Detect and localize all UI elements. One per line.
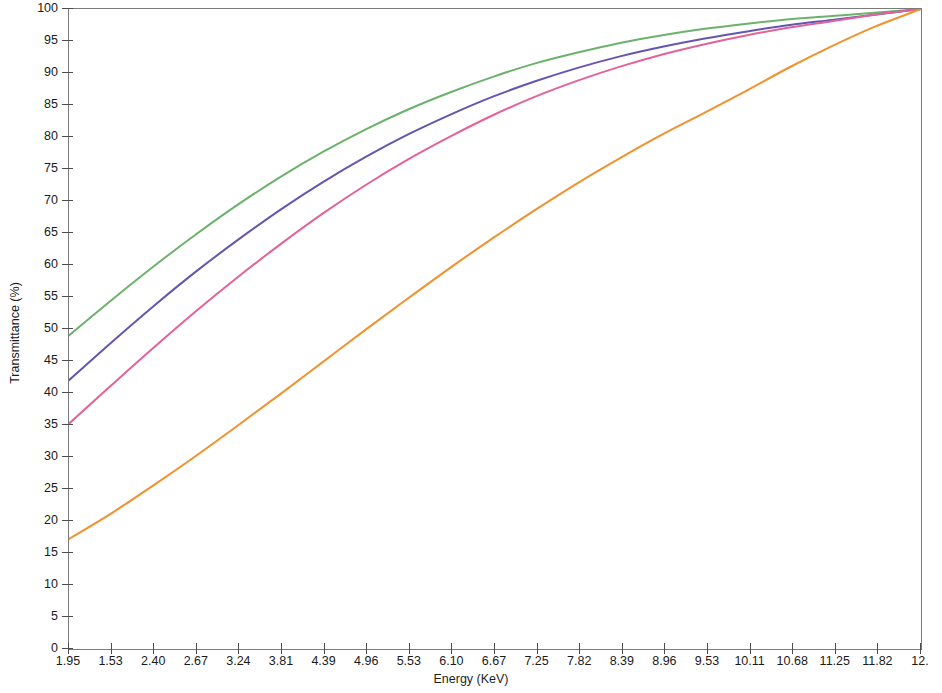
x-axis-tick-label: 8.96 [652, 653, 676, 669]
y-axis-tick-label: 75 [14, 161, 58, 175]
x-axis-tick-label: 6.67 [482, 653, 506, 669]
x-axis-tick-label: 1.53 [98, 653, 122, 669]
y-axis-tick-label: 5 [14, 609, 58, 623]
y-axis-tick-label: 35 [14, 417, 58, 431]
x-axis-tick-label: 10.68 [777, 653, 808, 669]
y-axis-tick-label: 70 [14, 193, 58, 207]
y-axis-tick-label: 65 [14, 225, 58, 239]
x-axis-tick-label: 5.53 [397, 653, 421, 669]
x-axis-tick-label: 2.40 [141, 653, 165, 669]
y-axis-tick-label: 40 [14, 385, 58, 399]
y-axis-tick-label: 85 [14, 97, 58, 111]
x-axis-tick-label: 9.53 [695, 653, 719, 669]
y-axis-tick-label: 25 [14, 481, 58, 495]
x-axis-tick-label: 2.67 [184, 653, 208, 669]
data-series-line [69, 9, 921, 424]
y-axis-tick-label: 20 [14, 513, 58, 527]
x-axis-tick-label: 7.25 [524, 653, 548, 669]
chart-figure: Transmittance (%) 1009590858075706560555… [0, 0, 942, 693]
y-axis-tick-label: 45 [14, 353, 58, 367]
x-axis-tick-label: 6.10 [439, 653, 463, 669]
x-axis-tick-label: 7.82 [567, 653, 591, 669]
x-axis-tick-label: 12. [911, 653, 928, 669]
x-axis-tick-label: 11.82 [862, 653, 892, 669]
y-axis-tick-label: 90 [14, 65, 58, 79]
x-axis-tick-label: 1.95 [56, 653, 80, 669]
y-axis-tick-label: 10 [14, 577, 58, 591]
x-axis-tick-label: 4.96 [354, 653, 378, 669]
x-axis-tick-label: 3.24 [226, 653, 250, 669]
x-axis-tick-label: 4.39 [311, 653, 335, 669]
y-axis-tick-label: 95 [14, 33, 58, 47]
y-axis-tick-label: 15 [14, 545, 58, 559]
chart-canvas [69, 9, 921, 649]
data-series-line [69, 9, 921, 539]
x-axis-title: Energy (KeV) [0, 672, 942, 686]
y-axis-tick-label: 60 [14, 257, 58, 271]
x-axis-tick-labels: 1.951.532.402.673.243.814.394.965.536.10… [0, 653, 942, 671]
y-axis-tick-labels: 1009590858075706560555045403530252015105… [14, 0, 58, 693]
y-axis-tick-label: 100 [14, 1, 58, 15]
x-axis-tick-label: 3.81 [269, 653, 293, 669]
y-axis-tick-label: 80 [14, 129, 58, 143]
y-axis-tick-label: 30 [14, 449, 58, 463]
plot-area [68, 8, 922, 650]
x-axis-tick-label: 8.39 [610, 653, 634, 669]
y-axis-tick-label: 55 [14, 289, 58, 303]
data-series-line [69, 9, 921, 335]
x-axis-tick-label: 11.25 [820, 653, 850, 669]
x-axis-tick-label: 10.11 [734, 653, 764, 669]
y-axis-tick-label: 50 [14, 321, 58, 335]
